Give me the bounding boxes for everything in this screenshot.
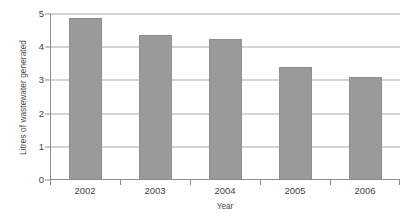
- x-axis-tick-label: 2002: [74, 186, 95, 196]
- y-axis-tick-label: 5: [39, 9, 44, 19]
- bar: [279, 67, 312, 180]
- x-axis-tick-mark: [190, 180, 191, 185]
- bar: [349, 77, 382, 180]
- x-axis-tick-label: 2005: [284, 186, 305, 196]
- bar-slot: [69, 14, 102, 180]
- x-axis-tick-mark: [260, 180, 261, 185]
- y-axis-tick-label: 1: [39, 142, 44, 152]
- bars-layer: [50, 14, 400, 180]
- bar: [69, 18, 102, 180]
- y-axis-tick-label: 0: [39, 175, 44, 185]
- y-axis-title-text: Litres of wastewater generated: [19, 40, 28, 155]
- x-axis-title: Year: [50, 202, 400, 211]
- bar-slot: [349, 14, 382, 180]
- bar-slot: [139, 14, 172, 180]
- x-axis-tick-mark: [330, 180, 331, 185]
- x-axis-tick-label: 2004: [214, 186, 235, 196]
- bar: [209, 39, 242, 180]
- x-axis-tick-label: 2006: [354, 186, 375, 196]
- bar: [139, 35, 172, 180]
- bar-slot: [209, 14, 242, 180]
- bar-slot: [279, 14, 312, 180]
- bar-chart-figure: Litres of wastewater generated 012345 20…: [0, 0, 420, 221]
- y-axis-tick-label: 4: [39, 42, 44, 52]
- x-axis-tick-labels: 20022003200420052006: [50, 186, 400, 200]
- y-axis-tick-labels: 012345: [30, 14, 44, 180]
- x-axis-tick-mark: [399, 180, 400, 185]
- y-axis-tick-label: 3: [39, 76, 44, 86]
- plot-area: [50, 14, 400, 180]
- x-axis-tick-label: 2003: [144, 186, 165, 196]
- y-axis-tick-label: 2: [39, 109, 44, 119]
- x-axis-tick-mark: [120, 180, 121, 185]
- x-axis-tick-mark: [50, 180, 51, 185]
